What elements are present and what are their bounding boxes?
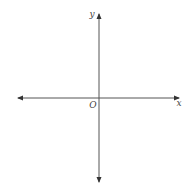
- origin-label: O: [89, 100, 97, 110]
- x-axis-left-arrow-icon: [17, 96, 23, 101]
- y-axis-label: y: [88, 9, 95, 19]
- y-axis-up-arrow-icon: [97, 13, 102, 19]
- x-axis-label: x: [176, 98, 181, 108]
- y-axis-down-arrow-icon: [97, 177, 102, 183]
- coordinate-plane: y O x: [0, 0, 194, 189]
